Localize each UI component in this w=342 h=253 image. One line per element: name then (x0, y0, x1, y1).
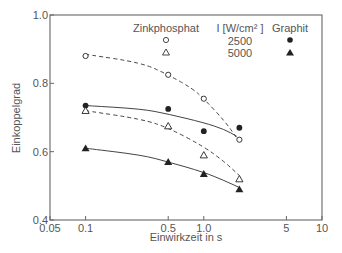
x-tick-label: 5 (283, 222, 289, 234)
legend-filled-triangle-icon (286, 49, 294, 56)
filled-circle-marker (201, 128, 207, 134)
legend: Zinkphosphat I [W/cm² ] Graphit 2500 500… (133, 22, 308, 59)
legend-header-intensity: I [W/cm² ] (216, 22, 263, 34)
y-tick-label: 0.8 (33, 77, 48, 89)
open-circle-marker (83, 53, 88, 58)
x-axis-label: Einwirkzeit in s (150, 231, 223, 243)
open-triangle-marker (236, 176, 243, 182)
filled-triangle-marker (82, 144, 90, 151)
x-tick-label: 10 (316, 222, 328, 234)
legend-intensity-5000: 5000 (228, 47, 252, 59)
fit-curves (86, 54, 240, 187)
chart: 0.050.10.51.05100.40.60.81.0 Einwirkzeit… (0, 0, 342, 253)
axis-ticks: 0.050.10.51.05100.40.60.81.0 (33, 9, 328, 234)
y-tick-label: 0.4 (33, 214, 48, 226)
filled-circle-marker (236, 125, 242, 131)
open-triangle-marker (165, 123, 172, 129)
legend-filled-circle-icon (287, 37, 293, 43)
filled-circle-marker (165, 106, 171, 112)
open-triangle-marker (200, 152, 207, 158)
legend-header-zinkphosphat: Zinkphosphat (133, 22, 199, 34)
y-tick-label: 0.6 (33, 146, 48, 158)
open-circle-marker (237, 137, 242, 142)
y-tick-label: 1.0 (33, 9, 48, 21)
x-tick-label: 0.1 (78, 222, 93, 234)
open-circle-marker (166, 72, 171, 77)
y-axis-label: Einkoppelgrad (10, 83, 22, 153)
data-points (82, 53, 244, 192)
legend-open-circle-icon (163, 37, 168, 42)
plot-frame (50, 15, 322, 220)
open-triangle-marker (82, 107, 89, 113)
solid-fit-curve (86, 148, 240, 187)
dashed-fit-curve (86, 111, 240, 176)
plot-area (50, 15, 322, 220)
open-circle-marker (201, 96, 206, 101)
legend-header-graphit: Graphit (272, 22, 308, 34)
legend-open-triangle-icon (163, 49, 170, 55)
legend-intensity-2500: 2500 (228, 35, 252, 47)
